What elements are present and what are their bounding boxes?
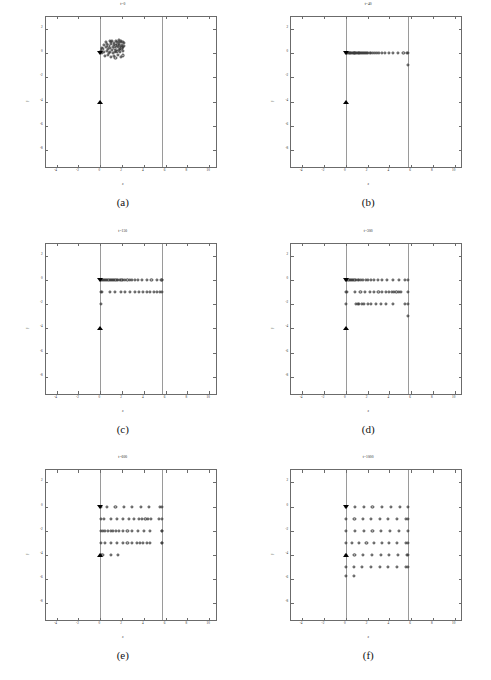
y-tick: [291, 150, 293, 151]
x-tick: [302, 470, 303, 472]
x-tick-label: 8: [186, 396, 188, 399]
y-tick-label: -8: [32, 147, 43, 150]
x-tick: [368, 618, 369, 620]
x-tick-label: -2: [322, 622, 325, 625]
y-tick: [46, 150, 48, 151]
agent-marker: [406, 566, 409, 569]
agent-marker: [161, 505, 164, 508]
agent-marker: [388, 529, 391, 532]
x-tick: [100, 470, 101, 472]
x-tick-label: -2: [76, 169, 79, 172]
agent-marker: [121, 49, 124, 52]
plot-frame: [290, 243, 462, 395]
y-tick-label: 2: [277, 480, 288, 483]
agent-marker: [406, 505, 409, 508]
agent-marker: [386, 278, 389, 281]
source-marker-icon: [97, 278, 103, 282]
x-tick: [368, 244, 369, 246]
x-tick-label: -4: [54, 396, 57, 399]
agent-marker: [406, 553, 409, 556]
y-tick: [213, 304, 215, 305]
agent-marker: [406, 315, 409, 318]
agent-marker: [392, 52, 395, 55]
agent-marker: [136, 529, 139, 532]
x-tick-label: 4: [388, 169, 390, 172]
agent-marker: [369, 566, 372, 569]
x-tick-label: 4: [142, 622, 144, 625]
plot-area: [291, 470, 461, 620]
x-tick-label: 6: [164, 396, 166, 399]
y-tick: [46, 304, 48, 305]
x-tick-label: 2: [366, 396, 368, 399]
y-tick: [459, 579, 461, 580]
x-tick-label: 2: [120, 622, 122, 625]
y-tick-label: -8: [277, 374, 288, 377]
y-tick: [291, 304, 293, 305]
y-tick-label: -2: [277, 301, 288, 304]
y-tick-label: 0: [277, 51, 288, 54]
agent-marker: [103, 541, 106, 544]
agent-marker: [108, 290, 111, 293]
agent-marker: [373, 541, 376, 544]
agent-marker: [399, 505, 402, 508]
agent-marker: [362, 505, 365, 508]
agent-marker: [345, 529, 348, 532]
y-tick: [459, 377, 461, 378]
plot-frame: [45, 243, 217, 395]
agent-marker: [373, 290, 376, 293]
agent-marker: [406, 290, 409, 293]
x-tick: [455, 165, 456, 167]
agent-marker: [103, 517, 106, 520]
y-tick: [46, 102, 48, 103]
x-tick: [144, 618, 145, 620]
agent-marker: [397, 278, 400, 281]
y-tick: [291, 377, 293, 378]
subplot-caption: (e): [117, 649, 129, 661]
agent-marker: [364, 290, 367, 293]
y-tick: [459, 126, 461, 127]
x-tick-label: 10: [207, 622, 210, 625]
agent-marker: [368, 290, 371, 293]
y-tick: [459, 353, 461, 354]
x-tick: [122, 391, 123, 393]
agent-marker: [137, 290, 140, 293]
x-tick: [57, 17, 58, 19]
y-tick: [213, 328, 215, 329]
y-tick: [459, 280, 461, 281]
y-tick-label: 0: [277, 504, 288, 507]
agent-marker: [131, 529, 134, 532]
reference-line-x0: [100, 244, 101, 394]
y-tick: [291, 579, 293, 580]
agent-marker: [121, 54, 124, 57]
agent-marker: [376, 278, 379, 281]
y-tick: [213, 603, 215, 604]
y-tick: [213, 29, 215, 30]
x-tick-label: 6: [409, 396, 411, 399]
y-tick-label: -4: [277, 99, 288, 102]
x-tick: [100, 17, 101, 19]
y-tick: [46, 353, 48, 354]
x-tick: [78, 391, 79, 393]
x-tick: [302, 17, 303, 19]
y-tick-label: -2: [32, 301, 43, 304]
reference-line-x0: [346, 244, 347, 394]
subplot-cell: t=0 x y -4-2024681020-2-4-6-8 (a): [0, 0, 246, 227]
x-tick: [346, 165, 347, 167]
x-tick: [389, 618, 390, 620]
agent-marker: [406, 52, 409, 55]
y-tick: [291, 507, 293, 508]
y-tick-label: -2: [32, 75, 43, 78]
agent-marker: [110, 553, 113, 556]
x-tick-label: 2: [120, 169, 122, 172]
y-tick-label: -4: [32, 326, 43, 329]
y-tick: [291, 280, 293, 281]
y-tick: [291, 328, 293, 329]
agent-marker: [345, 517, 348, 520]
agent-marker: [131, 541, 134, 544]
x-tick-label: -4: [54, 622, 57, 625]
agent-marker: [377, 290, 380, 293]
target-marker-icon: [97, 100, 103, 104]
y-tick: [459, 102, 461, 103]
agent-marker: [124, 290, 127, 293]
y-tick: [459, 328, 461, 329]
